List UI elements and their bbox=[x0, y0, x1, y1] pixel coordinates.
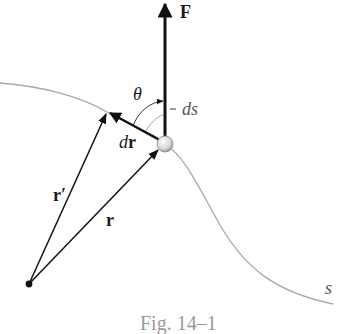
theta-label: θ bbox=[133, 85, 142, 103]
position-vector-r bbox=[29, 150, 158, 284]
r-prime-label: r′ bbox=[53, 186, 66, 204]
r-label: r bbox=[106, 211, 114, 229]
figure-caption: Fig. 14–1 bbox=[140, 313, 217, 333]
dr-label-d: d bbox=[119, 132, 128, 152]
ds-label: ds bbox=[182, 100, 198, 118]
dr-label: dr bbox=[119, 133, 136, 151]
position-vector-r-prime bbox=[29, 114, 106, 284]
particle bbox=[157, 136, 173, 152]
origin-point bbox=[26, 281, 33, 288]
path-s-label: s bbox=[325, 279, 332, 297]
dr-label-r: r bbox=[128, 132, 136, 152]
theta-arc bbox=[133, 101, 163, 126]
force-label: F bbox=[180, 3, 191, 21]
ds-arc bbox=[146, 115, 163, 131]
